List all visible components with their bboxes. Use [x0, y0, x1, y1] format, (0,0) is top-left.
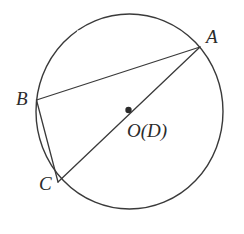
geometry-figure: A B C O(D) [0, 0, 244, 234]
arc-gap-upper-right [182, 26, 187, 30]
arc-gap-upper-left [77, 31, 82, 35]
diameter-CA [58, 47, 200, 182]
point-label-b: B [16, 89, 28, 108]
center-label-o-d: O(D) [127, 121, 167, 140]
point-label-a: A [206, 27, 218, 46]
point-label-c: C [39, 174, 52, 193]
center-dot [125, 107, 131, 113]
chord-BA [37, 47, 201, 100]
